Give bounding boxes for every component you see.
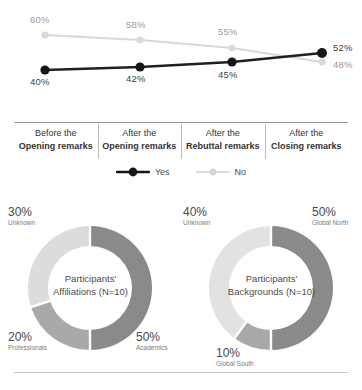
line-chart-plot bbox=[0, 0, 362, 112]
donut-affiliations-professionals-name: Professionals bbox=[8, 345, 47, 352]
point-label-yes-3: 45% bbox=[218, 69, 238, 80]
donut-backgrounds-label-unknown: 40% Unknown bbox=[183, 206, 210, 226]
donut-backgrounds-label-global-north: 50% Global North bbox=[312, 206, 349, 226]
x-axis-category-2: After the Opening remarks bbox=[98, 123, 182, 163]
series-no-point bbox=[136, 36, 143, 43]
donut-backgrounds-global-north-name: Global North bbox=[312, 220, 349, 227]
donut-affiliations-professionals-pct: 20% bbox=[8, 331, 47, 344]
point-label-no-1: 60% bbox=[30, 14, 50, 25]
donut-affiliations-center-line1: Participants' bbox=[0, 272, 181, 285]
donut-backgrounds-center-line2: Backgrounds (N=10) bbox=[181, 285, 362, 298]
x-axis-category-4: After the Closing remarks bbox=[265, 123, 349, 163]
donut-affiliations-academics-pct: 50% bbox=[136, 331, 168, 344]
legend-marker-no-icon bbox=[196, 166, 230, 178]
x-axis-category-4-line2: Closing remarks bbox=[265, 140, 349, 153]
donut-affiliations-unknown-name: Unknown bbox=[8, 220, 35, 227]
legend-item-yes: Yes bbox=[116, 166, 170, 178]
line-chart: 60% 58% 55% 48% 40% 42% 45% 52% bbox=[0, 0, 362, 112]
x-axis-category-1-line2: Opening remarks bbox=[14, 140, 98, 153]
point-label-no-4: 48% bbox=[333, 59, 353, 70]
donut-affiliations-academics-name: Academics bbox=[136, 345, 168, 352]
donut-backgrounds-global-south-pct: 10% bbox=[216, 347, 254, 360]
donut-chart-backgrounds: Participants' Backgrounds (N=10) 40% Unk… bbox=[181, 192, 362, 368]
donut-affiliations-unknown-pct: 30% bbox=[8, 206, 35, 219]
donut-affiliations-center-label: Participants' Affiliations (N=10) bbox=[0, 272, 181, 298]
series-no-point bbox=[318, 58, 325, 65]
legend-label-yes: Yes bbox=[155, 167, 170, 177]
x-axis-category-1: Before the Opening remarks bbox=[14, 123, 98, 163]
x-axis-category-3: After the Rebuttal remarks bbox=[181, 123, 265, 163]
donut-backgrounds-global-north-pct: 50% bbox=[312, 206, 349, 219]
donut-affiliations-center-line2: Affiliations (N=10) bbox=[0, 285, 181, 298]
figure-panel: 60% 58% 55% 48% 40% 42% 45% 52% Before t… bbox=[0, 0, 362, 390]
series-yes-point bbox=[40, 65, 49, 74]
donut-affiliations-label-professionals: 20% Professionals bbox=[8, 331, 47, 351]
donut-backgrounds-center-line1: Participants' bbox=[181, 272, 362, 285]
donut-charts-row: Participants' Affiliations (N=10) 30% Un… bbox=[0, 192, 362, 368]
donut-backgrounds-global-south-name: Global South bbox=[216, 361, 254, 368]
x-axis-category-1-line1: Before the bbox=[14, 127, 98, 140]
x-axis-category-4-line1: After the bbox=[265, 127, 349, 140]
series-yes-point bbox=[317, 48, 327, 58]
x-axis-category-2-line2: Opening remarks bbox=[98, 140, 182, 153]
bottom-divider bbox=[14, 372, 348, 373]
point-label-no-2: 58% bbox=[126, 19, 146, 30]
line-chart-legend: Yes No bbox=[0, 166, 362, 178]
donut-affiliations-label-academics: 50% Academics bbox=[136, 331, 168, 351]
legend-item-no: No bbox=[196, 166, 247, 178]
donut-backgrounds-label-global-south: 10% Global South bbox=[216, 347, 254, 367]
series-yes-point bbox=[135, 62, 144, 71]
series-no-point bbox=[41, 31, 48, 38]
point-label-yes-2: 42% bbox=[126, 73, 146, 84]
point-label-yes-4: 52% bbox=[333, 42, 353, 53]
series-yes-point bbox=[227, 57, 236, 66]
donut-backgrounds-unknown-name: Unknown bbox=[183, 220, 210, 227]
legend-marker-yes-icon bbox=[116, 166, 150, 178]
donut-backgrounds-unknown-pct: 40% bbox=[183, 206, 210, 219]
x-axis-category-3-line2: Rebuttal remarks bbox=[181, 140, 265, 153]
donut-affiliations-label-unknown: 30% Unknown bbox=[8, 206, 35, 226]
legend-label-no: No bbox=[235, 167, 247, 177]
point-label-no-3: 55% bbox=[218, 26, 238, 37]
donut-backgrounds-center-label: Participants' Backgrounds (N=10) bbox=[181, 272, 362, 298]
donut-chart-affiliations: Participants' Affiliations (N=10) 30% Un… bbox=[0, 192, 181, 368]
x-axis-category-3-line1: After the bbox=[181, 127, 265, 140]
point-label-yes-1: 40% bbox=[30, 76, 50, 87]
series-no-point bbox=[228, 44, 235, 51]
x-axis-category-band: Before the Opening remarks After the Ope… bbox=[14, 122, 348, 163]
x-axis-category-2-line1: After the bbox=[98, 127, 182, 140]
